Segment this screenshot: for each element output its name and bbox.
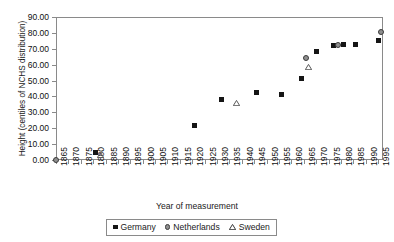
legend-label: Netherlands [173,222,219,232]
data-point-square [314,49,319,54]
x-tick-mark [353,160,354,164]
x-tick-label: 1990 [370,147,379,166]
x-tick-label: 1915 [184,147,193,166]
y-tick-label: 80.00 [28,29,49,38]
y-tick-label: 10.00 [28,140,49,149]
x-tick-mark [279,160,280,164]
y-tick-label: 0.00 [32,156,49,165]
x-tick-label: 1975 [333,147,342,166]
legend-label: Germany [121,222,156,232]
x-tick-label: 1935 [233,147,242,166]
data-point-square [254,90,259,95]
x-tick-mark [205,160,206,164]
y-tick-mark [52,65,56,66]
x-tick-label: 1895 [134,147,143,166]
x-tick-mark [130,160,131,164]
x-tick-label: 1955 [283,147,292,166]
x-tick-mark [341,160,342,164]
x-tick-label: 1985 [357,147,366,166]
x-tick-mark [316,160,317,164]
y-tick-mark [52,81,56,82]
data-point-triangle [305,64,312,70]
x-tick-label: 1960 [295,147,304,166]
y-tick-label: 20.00 [28,124,49,133]
chart-figure: Height (centiles of NCHS distribution) 9… [0,0,394,242]
x-tick-label: 1995 [382,147,391,166]
legend-square-icon [113,225,118,230]
x-tick-mark [68,160,69,164]
y-tick-mark [52,144,56,145]
x-tick-label: 1920 [196,147,205,166]
data-point-triangle [97,152,104,158]
x-tick-mark [242,160,243,164]
chart-legend: GermanyNetherlandsSweden [106,219,277,236]
data-point-square [192,123,197,128]
x-tick-mark [304,160,305,164]
x-tick-mark [93,160,94,164]
x-tick-label: 1910 [171,147,180,166]
x-tick-label: 1865 [60,147,69,166]
x-tick-mark [366,160,367,164]
y-tick-label: 60.00 [28,61,49,70]
x-tick-label: 1925 [209,147,218,166]
plot-area [56,17,383,160]
y-tick-label: 90.00 [28,13,49,22]
y-tick-mark [52,112,56,113]
x-tick-label: 1965 [308,147,317,166]
data-point-square [341,42,346,47]
x-tick-label: 1980 [345,147,354,166]
data-point-circle [53,157,59,163]
x-tick-label: 1940 [246,147,255,166]
data-point-square [219,97,224,102]
x-tick-label: 1875 [85,147,94,166]
x-tick-mark [217,160,218,164]
data-point-square [279,92,284,97]
x-tick-label: 1950 [271,147,280,166]
data-point-square [376,38,381,43]
x-tick-label: 1970 [320,147,329,166]
x-tick-mark [192,160,193,164]
x-axis-title: Year of measurement [0,201,394,211]
x-tick-mark [155,160,156,164]
y-tick-label: 40.00 [28,92,49,101]
data-point-square [299,76,304,81]
legend-circle-icon [165,224,171,230]
x-tick-mark [106,160,107,164]
x-tick-label: 1900 [147,147,156,166]
x-tick-label: 1885 [110,147,119,166]
x-tick-label: 1890 [122,147,131,166]
y-tick-mark [52,128,56,129]
data-point-circle [378,29,384,35]
data-point-circle [303,55,309,61]
y-tick-label: 50.00 [28,77,49,86]
legend-item-netherlands: Netherlands [165,222,220,232]
legend-triangle-icon [229,224,236,230]
y-tick-label: 70.00 [28,45,49,54]
x-tick-label: 1905 [159,147,168,166]
x-tick-label: 1945 [258,147,267,166]
x-tick-mark [167,160,168,164]
y-tick-mark [52,17,56,18]
y-tick-mark [52,49,56,50]
data-point-square [353,42,358,47]
x-tick-mark [143,160,144,164]
y-tick-label: 30.00 [28,108,49,117]
x-tick-mark [267,160,268,164]
x-tick-mark [118,160,119,164]
data-point-triangle [233,100,240,106]
y-tick-mark [52,96,56,97]
legend-item-sweden: Sweden [229,222,270,232]
x-tick-mark [229,160,230,164]
x-tick-mark [254,160,255,164]
legend-item-germany: Germany [113,222,156,232]
x-tick-mark [180,160,181,164]
x-tick-mark [378,160,379,164]
legend-label: Sweden [239,222,270,232]
x-tick-label: 1870 [72,147,81,166]
x-tick-mark [291,160,292,164]
x-tick-mark [81,160,82,164]
x-tick-mark [329,160,330,164]
x-tick-label: 1930 [221,147,230,166]
y-tick-mark [52,33,56,34]
